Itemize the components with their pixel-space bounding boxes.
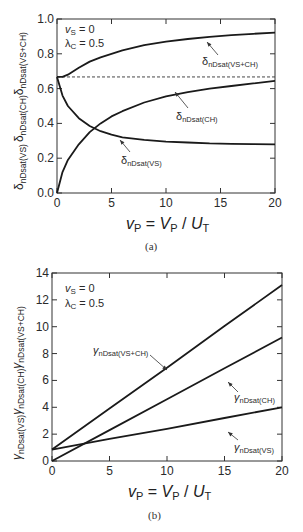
y-tick-label: 0.4 xyxy=(37,116,54,130)
x-tick-label: 15 xyxy=(214,196,228,210)
y-tick-label: 4 xyxy=(42,400,49,414)
label-delta-ch: δnDsat(CH) xyxy=(176,110,218,124)
x-axis-label-a: vP = VP / UT xyxy=(126,215,210,234)
series-line xyxy=(52,407,282,449)
y-tick-label: 2 xyxy=(42,427,49,441)
label-gamma-vs: γnDsat(VS) xyxy=(234,441,275,455)
y-tick-label: 14 xyxy=(36,266,50,280)
x-tick-label: 5 xyxy=(108,196,115,210)
x-axis-label-b: vP = VP / UT xyxy=(128,483,212,502)
curves-a xyxy=(57,33,275,193)
annotation-vs-a: vS = 0 xyxy=(65,23,95,37)
annotation-lambda-a: λC = 0.5 xyxy=(65,37,104,51)
y-tick-label: 0.2 xyxy=(37,151,54,165)
y-tick-label: 12 xyxy=(36,293,50,307)
x-tick-label: 10 xyxy=(160,464,174,478)
annotation-vs-b: vS = 0 xyxy=(65,282,95,296)
x-tick-label: 20 xyxy=(268,196,282,210)
chart-panel-a: 051015200.00.20.40.60.81.0 vS = 0 λC = 0… xyxy=(12,12,282,253)
x-tick-label: 0 xyxy=(49,464,56,478)
y-axis-label-a: δnDsat(VS)δnDsat(CH)δnDsat(VS+CH) xyxy=(12,32,28,190)
chart-panel-b: 0510152002468101214 vS = 0 λC = 0.5 γnDs… xyxy=(10,266,289,522)
y-axis-label-b: γnDsat(VS)γnDsat(CH)γnDsat(VS+CH) xyxy=(10,306,26,460)
x-tick-label: 20 xyxy=(275,464,289,478)
x-tick-label: 5 xyxy=(106,464,113,478)
y-tick-label: 1.0 xyxy=(37,12,54,26)
y-tick-label: 0.8 xyxy=(37,47,54,61)
x-tick-label: 0 xyxy=(54,196,61,210)
label-delta-vs: δnDsat(VS) xyxy=(121,154,162,168)
curves-b xyxy=(52,285,282,461)
svg-text:γnDsat(VS)γnDsat(CH)γnDsat(VS+: γnDsat(VS)γnDsat(CH)γnDsat(VS+CH) xyxy=(10,306,26,460)
y-tick-label: 0.0 xyxy=(37,186,54,200)
series-line xyxy=(52,285,282,450)
y-tick-label: 0 xyxy=(42,454,49,468)
label-delta-vs-ch: δnDsat(VS+CH) xyxy=(202,55,258,69)
x-tick-label: 10 xyxy=(159,196,173,210)
label-gamma-ch: γnDsat(CH) xyxy=(234,391,275,405)
series-line xyxy=(57,77,275,144)
figure: 051015200.00.20.40.60.81.0 vS = 0 λC = 0… xyxy=(0,0,303,532)
y-tick-label: 6 xyxy=(42,373,49,387)
svg-text:δnDsat(VS)δnDsat(CH)δnDsat(VS+: δnDsat(VS)δnDsat(CH)δnDsat(VS+CH) xyxy=(12,32,28,190)
annotation-lambda-b: λC = 0.5 xyxy=(65,297,104,311)
caption-b: (b) xyxy=(148,509,161,522)
caption-a: (a) xyxy=(145,240,158,253)
series-line xyxy=(57,81,275,193)
label-gamma-vs-ch: γnDsat(VS+CH) xyxy=(93,344,149,358)
y-tick-label: 0.6 xyxy=(37,82,54,96)
y-tick-label: 10 xyxy=(36,320,50,334)
x-tick-label: 15 xyxy=(218,464,232,478)
y-tick-label: 8 xyxy=(42,347,49,361)
